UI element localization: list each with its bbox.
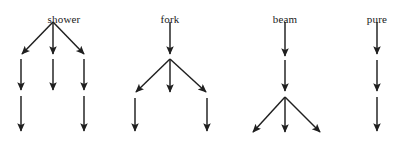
arrow-group	[21, 22, 377, 132]
shower-branch-right	[53, 22, 84, 54]
shower-branch-left	[22, 22, 53, 54]
fork-branch-right	[170, 59, 206, 92]
beam-branch-left	[253, 97, 285, 132]
arrow-layer	[0, 0, 411, 141]
beam-branch-right	[285, 97, 320, 132]
fork-branch-left	[136, 59, 170, 92]
tree-diagram-figure: showerforkbeampure	[0, 0, 411, 141]
